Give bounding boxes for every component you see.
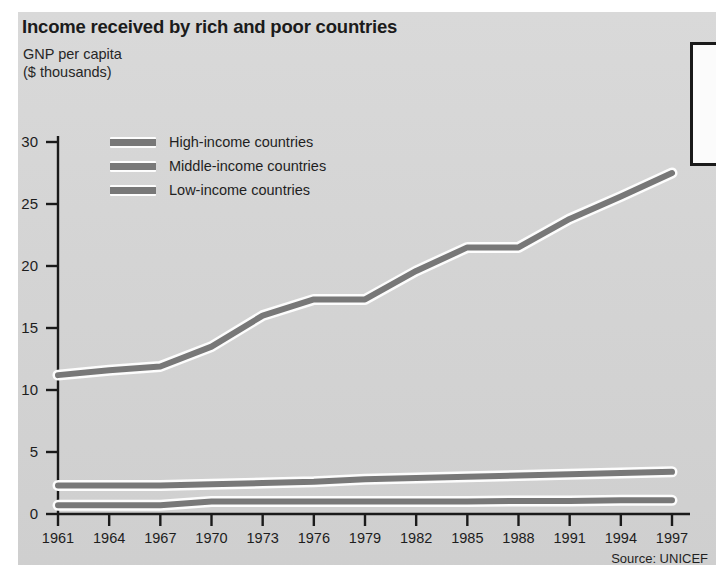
legend-item-high-income: High-income countries	[110, 130, 326, 154]
chart-screenshot: Income received by rich and poor countri…	[0, 0, 716, 585]
data-series-layer	[58, 173, 672, 505]
x-axis-tick-label: 1994	[599, 530, 643, 546]
series-line-high-income-countries	[58, 173, 672, 375]
series-halo-high-income-countries	[58, 173, 672, 375]
legend-swatch-high-income	[110, 137, 156, 148]
x-axis-tick-label: 1976	[292, 530, 336, 546]
legend-swatch-middle-income	[110, 161, 156, 172]
x-axis-ticks	[58, 514, 672, 526]
x-axis-tick-label: 1997	[650, 530, 694, 546]
plot-area	[0, 0, 716, 585]
x-axis-tick-label: 1973	[241, 530, 285, 546]
y-axis-tick-label: 15	[8, 319, 38, 336]
legend-label-middle-income: Middle-income countries	[169, 158, 326, 174]
y-axis-tick-label: 0	[8, 505, 38, 522]
y-axis-tick-label: 5	[8, 443, 38, 460]
chart-legend: High-income countries Middle-income coun…	[110, 130, 326, 202]
x-axis-tick-label: 1979	[343, 530, 387, 546]
y-axis-tick-label: 25	[8, 195, 38, 212]
legend-item-middle-income: Middle-income countries	[110, 154, 326, 178]
x-axis-tick-label: 1970	[190, 530, 234, 546]
source-note: Source: UNICEF	[611, 551, 708, 566]
x-axis-tick-label: 1967	[138, 530, 182, 546]
x-axis-tick-label: 1991	[548, 530, 592, 546]
y-axis-tick-label: 30	[8, 133, 38, 150]
y-axis-tick-label: 10	[8, 381, 38, 398]
x-axis-tick-label: 1961	[36, 530, 80, 546]
x-axis-tick-label: 1982	[394, 530, 438, 546]
legend-swatch-low-income	[110, 185, 156, 196]
x-axis-tick-label: 1985	[445, 530, 489, 546]
y-axis-ticks	[46, 142, 58, 514]
legend-item-low-income: Low-income countries	[110, 178, 326, 202]
y-axis-tick-label: 20	[8, 257, 38, 274]
legend-label-high-income: High-income countries	[169, 134, 313, 150]
x-axis-tick-label: 1988	[497, 530, 541, 546]
legend-label-low-income: Low-income countries	[169, 182, 310, 198]
x-axis-tick-label: 1964	[87, 530, 131, 546]
